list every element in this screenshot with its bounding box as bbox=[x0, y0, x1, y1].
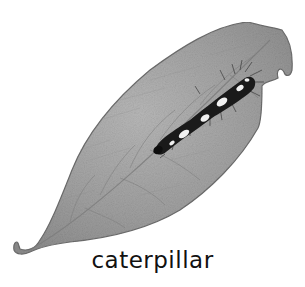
caption-label: caterpillar bbox=[0, 247, 305, 273]
leaf-caterpillar-illustration bbox=[0, 0, 305, 287]
illustration-canvas: caterpillar bbox=[0, 0, 305, 287]
leaf-icon bbox=[14, 22, 292, 254]
